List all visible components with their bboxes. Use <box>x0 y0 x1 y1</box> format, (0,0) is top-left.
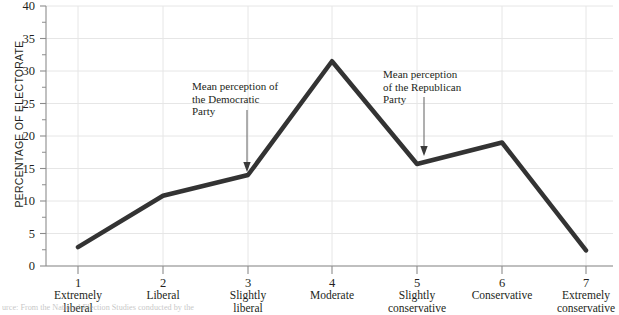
x-axis-ticks <box>78 266 586 274</box>
annotation-arrow-republican <box>420 97 427 156</box>
y-tick-label-25: 25 <box>5 97 35 112</box>
annotation-democratic-party: Mean perception of the Democratic Party <box>192 80 317 118</box>
chart-figure: PERCENTAGE OF ELECTORATE <box>0 0 619 315</box>
y-tick-label-5: 5 <box>5 227 35 242</box>
annotation-arrow-democratic <box>243 110 250 172</box>
y-tick-label-35: 35 <box>5 32 35 47</box>
y-tick-label-0: 0 <box>5 259 35 274</box>
x-category-label-liberal: Liberal <box>115 289 211 302</box>
x-category-label-conservative: Conservative <box>454 289 550 302</box>
y-tick-label-30: 30 <box>5 64 35 79</box>
grid-horizontal <box>46 6 613 266</box>
y-tick-label-40: 40 <box>5 0 35 14</box>
y-tick-label-20: 20 <box>5 129 35 144</box>
y-tick-label-10: 10 <box>5 194 35 209</box>
y-axis-major-ticks <box>40 6 46 266</box>
y-tick-label-15: 15 <box>5 162 35 177</box>
x-category-label-moderate: Moderate <box>284 289 380 302</box>
annotation-republican-party: Mean perception of the Republican Party <box>383 68 508 106</box>
plot-area <box>0 0 619 315</box>
source-caption: urce: From the National Election Studies… <box>2 303 617 314</box>
